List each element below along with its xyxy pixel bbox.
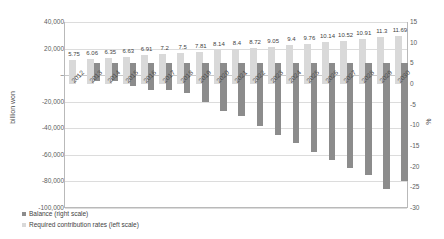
y-tick-left: -80,000 bbox=[18, 177, 64, 184]
y-tick-left: – bbox=[18, 71, 64, 78]
bar-value-label: 11.69 bbox=[389, 27, 411, 34]
y-tick-right: 15 bbox=[410, 18, 438, 25]
y-tick-right: -15 bbox=[410, 142, 438, 149]
y-tick-right: 5 bbox=[410, 59, 438, 66]
legend-item: Required contribution rates (left scale) bbox=[22, 220, 139, 229]
y-tick-right: -30 bbox=[410, 204, 438, 211]
bar-series-container: 5.756.066.356.636.917.27.57.818.148.48.7… bbox=[65, 22, 407, 207]
chart-legend: Balance (right scale)Required contributi… bbox=[22, 209, 139, 231]
y-tick-left: 20,000 bbox=[18, 45, 64, 52]
legend-swatch-icon bbox=[22, 223, 26, 227]
y-tick-right: 10 bbox=[410, 39, 438, 46]
y-tick-left: -20,000 bbox=[18, 98, 64, 105]
y-tick-left: -60,000 bbox=[18, 151, 64, 158]
y-tick-right: -5 bbox=[410, 101, 438, 108]
y-tick-right: -25 bbox=[410, 183, 438, 190]
legend-item: Balance (right scale) bbox=[22, 209, 139, 218]
y-tick-right: -20 bbox=[410, 163, 438, 170]
legend-label: Balance (right scale) bbox=[29, 209, 88, 218]
y-tick-right: 0 bbox=[410, 80, 438, 87]
legend-swatch-icon bbox=[22, 212, 26, 216]
combo-bar-chart: billion won % 40,00020,000–-20,000-40,00… bbox=[0, 0, 444, 239]
plot-area: 5.756.066.356.636.917.27.57.818.148.48.7… bbox=[64, 22, 408, 208]
y-axis-left-title: billion won bbox=[9, 78, 16, 138]
y-tick-left: 40,000 bbox=[18, 18, 64, 25]
y-tick-left: -40,000 bbox=[18, 124, 64, 131]
legend-label: Required contribution rates (left scale) bbox=[29, 220, 139, 229]
y-tick-right: -10 bbox=[410, 121, 438, 128]
